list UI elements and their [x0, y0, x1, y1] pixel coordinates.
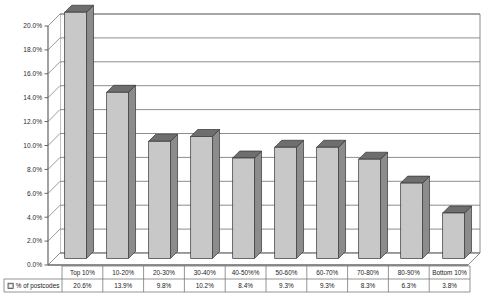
- bar-front-face: [401, 183, 423, 258]
- bar-side-face: [87, 5, 94, 258]
- y-axis-tick-label: 14.0%: [23, 94, 42, 101]
- category-label: 10-20%: [112, 269, 134, 276]
- bar: [443, 206, 472, 258]
- category-label: 20-30%: [153, 269, 175, 276]
- value-label: 9.3%: [279, 282, 294, 289]
- y-axis-tick-label: 12.0%: [23, 118, 42, 125]
- value-label: 8.4%: [238, 282, 253, 289]
- bar: [275, 140, 304, 258]
- bar: [191, 130, 220, 259]
- bar: [317, 140, 346, 258]
- legend-swatch-inner: [9, 285, 11, 287]
- bar-front-face: [359, 159, 381, 258]
- bar-side-face: [381, 152, 388, 258]
- bar-side-face: [213, 130, 220, 259]
- bar-front-face: [317, 147, 339, 258]
- category-label: Top 10%: [70, 269, 95, 277]
- data-table-group: % of postcodesTop 10%20.6%10-20%13.9%20-…: [4, 266, 470, 292]
- bar-side-face: [171, 134, 178, 258]
- category-label: Bottom 10%: [432, 269, 467, 276]
- legend-label: % of postcodes: [16, 282, 60, 290]
- value-label: 3.8%: [442, 282, 457, 289]
- y-axis-tick-label: 4.0%: [27, 214, 42, 221]
- bar-side-face: [255, 151, 262, 258]
- value-label: 10.2%: [196, 282, 214, 289]
- bar-front-face: [65, 12, 87, 258]
- category-label: 70-80%: [357, 269, 379, 276]
- bar: [233, 151, 262, 258]
- bar-chart-3d: 0.0%2.0%4.0%6.0%8.0%10.0%12.0%14.0%16.0%…: [0, 0, 490, 295]
- y-axis-tick-label: 6.0%: [27, 190, 42, 197]
- value-label: 13.9%: [114, 282, 132, 289]
- y-axis-tick-label: 2.0%: [27, 237, 42, 244]
- y-axis-tick-label: 16.0%: [23, 70, 42, 77]
- bar: [107, 85, 136, 258]
- category-label: 40-50%%: [232, 269, 260, 276]
- bar-side-face: [339, 140, 346, 258]
- bar-front-face: [275, 147, 297, 258]
- value-label: 9.3%: [320, 282, 335, 289]
- value-label: 20.6%: [73, 282, 91, 289]
- bar: [65, 5, 94, 258]
- category-label: 30-40%: [194, 269, 216, 276]
- y-axis-tick-label: 18.0%: [23, 46, 42, 53]
- bar-side-face: [423, 176, 430, 258]
- chart-container: 0.0%2.0%4.0%6.0%8.0%10.0%12.0%14.0%16.0%…: [0, 0, 490, 295]
- bar: [149, 134, 178, 258]
- bar-side-face: [297, 140, 304, 258]
- category-label: 60-70%: [316, 269, 338, 276]
- bar-front-face: [191, 137, 213, 259]
- bar-front-face: [149, 141, 171, 258]
- y-axis-tick-label: 8.0%: [27, 166, 42, 173]
- bar: [359, 152, 388, 258]
- y-axis-tick-label: 20.0%: [23, 22, 42, 29]
- bar-side-face: [129, 85, 136, 258]
- category-label: 50-60%: [275, 269, 297, 276]
- bar-front-face: [107, 92, 129, 258]
- bar-side-face: [465, 206, 472, 258]
- value-label: 8.3%: [361, 282, 376, 289]
- y-axis-tick-label: 10.0%: [23, 142, 42, 149]
- bar-front-face: [233, 158, 255, 258]
- bar: [401, 176, 430, 258]
- category-label: 80-90%: [398, 269, 420, 276]
- value-label: 6.3%: [402, 282, 417, 289]
- y-axis-tick-label: 0.0%: [27, 261, 42, 268]
- value-label: 9.8%: [157, 282, 172, 289]
- bar-front-face: [443, 213, 465, 258]
